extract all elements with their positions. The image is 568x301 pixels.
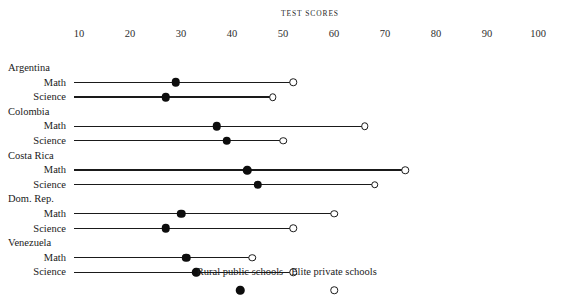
x-axis-tick-30: 30 [176,28,187,39]
range-line [74,82,293,83]
x-axis-tick-70: 70 [380,28,391,39]
rural-public-point [253,180,262,189]
legend-marker-open-circle [330,286,338,294]
elite-private-point [289,79,297,87]
country-label-dom-rep: Dom. Rep. [8,193,54,204]
chart-title: TEST SCORES [260,9,360,18]
elite-private-point [289,225,297,233]
subject-label-dom-rep-math: Math [4,208,66,219]
test-scores-chart: TEST SCORES 102030405060708090100 Argent… [0,0,568,301]
x-axis-tick-40: 40 [227,28,238,39]
x-axis-tick-100: 100 [530,28,546,39]
subject-label-colombia-math: Math [4,120,66,131]
rural-public-point [223,137,232,146]
range-line [74,96,273,97]
subject-label-venezuela-math: Math [4,252,66,263]
range-line [74,184,375,185]
elite-private-point [330,210,338,218]
elite-private-point [361,122,369,130]
country-label-venezuela: Venezuela [8,237,51,248]
rural-public-point [177,210,186,219]
range-line [74,169,406,170]
subject-label-costa-rica-science: Science [4,179,66,190]
range-line [74,213,334,214]
elite-private-point [269,93,277,101]
subject-label-venezuela-science: Science [4,266,66,277]
subject-label-costa-rica-math: Math [4,164,66,175]
x-axis-tick-90: 90 [482,28,493,39]
rural-public-point [172,78,181,87]
rural-public-point [161,224,170,233]
x-axis-tick-80: 80 [431,28,442,39]
elite-private-point [402,166,410,174]
subject-label-colombia-science: Science [4,135,66,146]
range-line [74,228,293,229]
country-label-argentina: Argentina [8,62,50,73]
subject-label-argentina-science: Science [4,91,66,102]
x-axis-tick-10: 10 [74,28,85,39]
rural-public-point [182,253,191,262]
range-line [74,140,283,141]
legend-label-rural-public-schools: Rural public schools [197,266,283,277]
country-label-colombia: Colombia [8,106,49,117]
x-axis-tick-20: 20 [125,28,136,39]
legend-label-elite-private-schools: Elite private schools [291,266,377,277]
legend-marker-filled-circle [236,286,245,295]
rural-public-point [161,93,170,102]
rural-public-point [243,166,252,175]
elite-private-point [279,137,287,145]
country-label-costa-rica: Costa Rica [8,150,54,161]
range-line [74,257,253,258]
elite-private-point [371,181,379,189]
elite-private-point [249,254,257,262]
subject-label-argentina-math: Math [4,77,66,88]
x-axis-tick-50: 50 [278,28,289,39]
x-axis-tick-60: 60 [329,28,340,39]
rural-public-point [212,122,221,131]
subject-label-dom-rep-science: Science [4,223,66,234]
